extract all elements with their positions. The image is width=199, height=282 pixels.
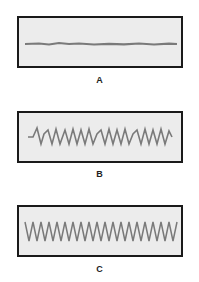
label-a: A: [0, 75, 199, 85]
waveform-a-flat: [19, 18, 181, 66]
panel-a: [17, 16, 183, 68]
label-b: B: [0, 169, 199, 179]
panel-c: [17, 205, 183, 257]
panel-b: [17, 111, 183, 163]
waveform-c-zigzag: [19, 207, 181, 255]
waveform-b-sawtooth: [19, 113, 181, 161]
label-c: C: [0, 264, 199, 274]
